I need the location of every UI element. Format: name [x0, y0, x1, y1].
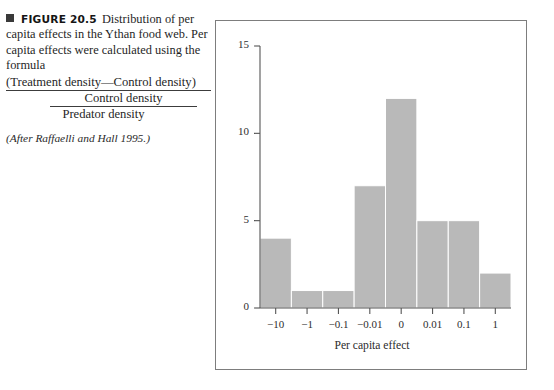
- inner-denominator: Control density: [50, 91, 197, 107]
- outer-fraction: (Treatment density—Control density) Cont…: [6, 75, 211, 122]
- caption-text: FIGURE 20.5Distribution of per capita ef…: [6, 12, 211, 74]
- filled-square-icon: [6, 14, 14, 22]
- outer-numerator: (Treatment density—Control density) Cont…: [6, 75, 211, 107]
- outer-denominator: Predator density: [6, 107, 201, 122]
- histogram-plot: Per capita effect 051015−10−1−0.1−0.0100…: [216, 21, 528, 371]
- figure-number-label: FIGURE 20.5: [21, 13, 97, 25]
- x-axis-tick-label: 1: [469, 318, 521, 330]
- formula-block: (Treatment density—Control density) Cont…: [6, 75, 211, 122]
- histogram-bar: [291, 291, 322, 308]
- inner-numerator: (Treatment density—Control density): [6, 75, 211, 91]
- figure-chart-frame: Per capita effect 051015−10−1−0.1−0.0100…: [215, 20, 527, 370]
- histogram-bar: [417, 221, 448, 308]
- figure-caption-block: FIGURE 20.5Distribution of per capita ef…: [6, 12, 211, 144]
- caption-attribution: (After Raffaelli and Hall 1995.): [6, 132, 211, 144]
- inner-fraction: (Treatment density—Control density) Cont…: [6, 75, 211, 107]
- histogram-bar: [323, 291, 354, 308]
- y-axis-tick-label: 5: [216, 213, 249, 225]
- x-axis-title: Per capita effect: [216, 339, 528, 352]
- histogram-bar: [386, 98, 417, 308]
- y-axis-tick-label: 10: [216, 125, 249, 137]
- histogram-bar: [480, 273, 511, 308]
- y-axis-tick-label: 0: [216, 300, 249, 312]
- histogram-bar: [448, 221, 479, 308]
- y-axis-tick-label: 15: [216, 38, 249, 50]
- histogram-bar: [354, 186, 385, 308]
- histogram-bar: [260, 238, 291, 308]
